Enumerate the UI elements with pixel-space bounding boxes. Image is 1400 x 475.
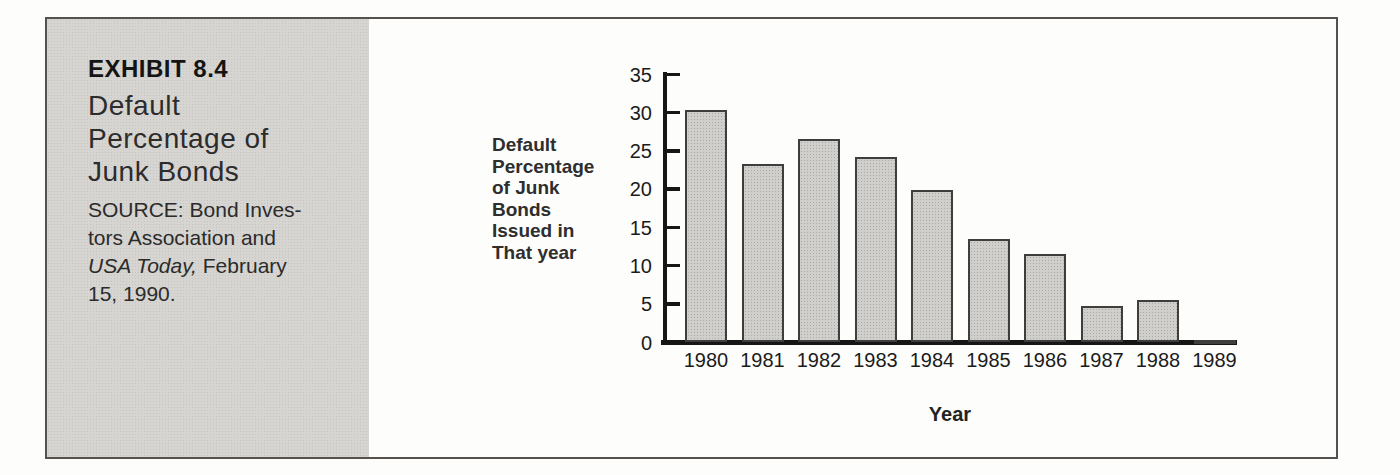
x-tick-label: 1984 [900, 349, 964, 371]
bar [911, 190, 953, 342]
y-tick [667, 111, 680, 115]
x-tick-label: 1980 [674, 349, 738, 371]
x-axis-title: Year [900, 403, 1000, 425]
y-axis-title-line: Percentage [492, 156, 642, 178]
bar [1024, 254, 1066, 342]
y-tick [667, 149, 680, 153]
bar [798, 139, 840, 342]
y-tick-label: 30 [582, 102, 652, 124]
bar [968, 239, 1010, 342]
chart: 0510152025303519801981198219831984198519… [47, 19, 1336, 457]
x-tick-label: 1988 [1126, 349, 1190, 371]
y-tick [667, 187, 680, 191]
y-axis-title: DefaultPercentageof JunkBondsIssued inTh… [492, 134, 642, 263]
bar [1081, 306, 1123, 342]
bar [685, 110, 727, 342]
y-tick [667, 226, 680, 230]
x-tick-label: 1989 [1183, 349, 1247, 371]
bar [1137, 300, 1179, 342]
y-tick-label: 35 [582, 64, 652, 86]
y-tick [667, 73, 680, 77]
x-tick-label: 1985 [957, 349, 1021, 371]
exhibit-box: EXHIBIT 8.4 Default Percentage of Junk B… [45, 17, 1338, 459]
page: EXHIBIT 8.4 Default Percentage of Junk B… [0, 0, 1400, 475]
x-tick-label: 1986 [1013, 349, 1077, 371]
x-tick-label: 1982 [787, 349, 851, 371]
y-axis-title-line: That year [492, 242, 642, 264]
y-axis-title-line: Default [492, 134, 642, 156]
y-tick-label: 0 [582, 332, 652, 354]
bar [855, 157, 897, 342]
x-tick-label: 1987 [1070, 349, 1134, 371]
bar [1194, 340, 1236, 344]
y-axis-title-line: Issued in [492, 220, 642, 242]
y-axis-title-line: of Junk [492, 177, 642, 199]
y-tick [667, 264, 680, 268]
bar [742, 164, 784, 342]
x-tick-label: 1983 [844, 349, 908, 371]
x-tick-label: 1981 [731, 349, 795, 371]
y-tick [667, 302, 680, 306]
y-axis-title-line: Bonds [492, 199, 642, 221]
y-tick-label: 5 [582, 293, 652, 315]
